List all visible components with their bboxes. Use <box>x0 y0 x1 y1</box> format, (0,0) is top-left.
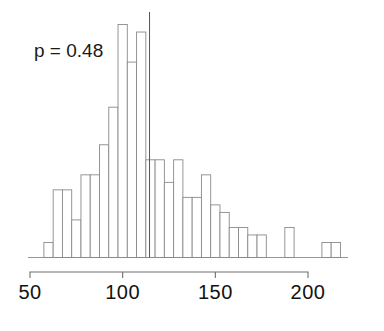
histogram-bar <box>155 160 164 258</box>
histogram-svg: 50100150200 p = 0.48 <box>0 0 384 331</box>
histogram-bar <box>183 197 192 257</box>
histogram-bar <box>285 227 294 257</box>
x-axis-tick-label: 200 <box>291 281 326 303</box>
histogram-bar <box>53 190 62 258</box>
histogram-bar <box>137 32 146 257</box>
x-axis-tick-labels: 50100150200 <box>18 281 325 303</box>
histogram-bar <box>211 205 220 258</box>
histogram-bar <box>220 212 229 257</box>
histogram-bar <box>164 182 173 257</box>
histogram-figure: 50100150200 p = 0.48 <box>0 0 384 331</box>
p-value-annotation: p = 0.48 <box>34 40 103 61</box>
histogram-bar <box>44 242 53 257</box>
histogram-bar <box>72 220 81 258</box>
histogram-bar <box>174 160 183 258</box>
histogram-bar <box>100 145 109 258</box>
x-axis-line <box>30 272 308 278</box>
histogram-bar <box>239 227 248 257</box>
histogram-bar <box>248 235 257 258</box>
x-axis-ticks <box>123 272 216 278</box>
x-axis-tick-label: 100 <box>105 281 140 303</box>
histogram-bar <box>146 160 155 258</box>
x-axis-tick-label: 50 <box>18 281 41 303</box>
histogram-bar <box>192 197 201 257</box>
histogram-bar <box>118 25 127 258</box>
histogram-bar <box>62 190 71 258</box>
histogram-bar <box>81 175 90 258</box>
histogram-bar <box>127 62 136 257</box>
histogram-bar <box>109 107 118 257</box>
histogram-bar <box>322 242 331 257</box>
x-axis: 50100150200 <box>18 272 325 303</box>
histogram-bar <box>331 242 340 257</box>
histogram-bar <box>90 175 99 258</box>
histogram-bar <box>229 227 238 257</box>
histogram-bar <box>201 175 210 258</box>
histogram-bar <box>257 235 266 258</box>
x-axis-tick-label: 150 <box>198 281 233 303</box>
